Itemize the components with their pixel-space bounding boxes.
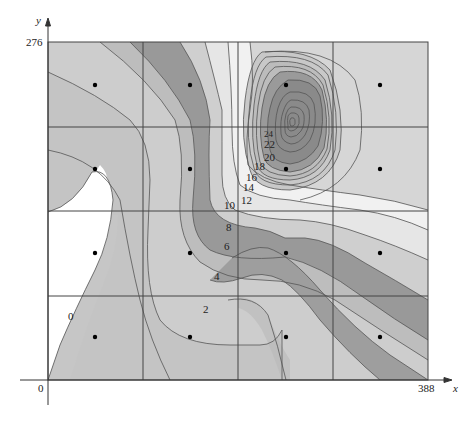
contour-label-4: 4 xyxy=(214,270,220,282)
contour-label-6: 6 xyxy=(224,240,230,252)
origin-label: 0 xyxy=(38,382,44,394)
contour-chart: y x 276 388 0 0 2 4 6 8 10 12 14 16 18 2… xyxy=(0,0,473,425)
contour-label-20: 20 xyxy=(264,151,276,163)
contour-label-16: 16 xyxy=(246,171,258,183)
y-max-tick: 276 xyxy=(26,36,43,48)
contour-label-2: 2 xyxy=(203,303,209,315)
contour-label-0: 0 xyxy=(68,310,74,322)
x-axis-label: x xyxy=(452,382,458,394)
y-axis-label: y xyxy=(35,14,41,26)
contour-label-12: 12 xyxy=(241,194,252,206)
contour-label-8: 8 xyxy=(226,221,232,233)
contour-label-24: 24 xyxy=(264,129,274,139)
x-max-tick: 388 xyxy=(418,382,435,394)
contour-label-10: 10 xyxy=(224,199,236,211)
contour-label-22: 22 xyxy=(264,138,275,150)
